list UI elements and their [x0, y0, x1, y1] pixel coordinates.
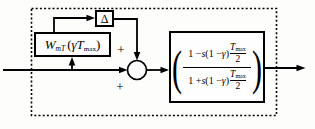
main-fraction-bar: [183, 67, 251, 68]
output-arrowhead: [297, 65, 306, 72]
tmax-subscript: max: [84, 45, 96, 53]
gamma-tmax-symbol: γT: [72, 37, 84, 53]
tf-numerator-part: (1 −: [205, 48, 221, 59]
tf-fraction: 1 − s (1 − γ ) T max 2 1 + s (1 −: [183, 43, 251, 92]
tf-numerator-part: 1 −: [188, 48, 201, 59]
tf-close-paren: ): [252, 42, 262, 92]
transfer-function-block: ( 1 − s (1 − γ ) T max 2 1 +: [169, 31, 265, 103]
wmt-to-delta-line: [54, 18, 87, 32]
delta-input-arrowhead: [87, 15, 96, 22]
summing-junction: [128, 61, 147, 80]
tmax-numerator: T max: [230, 70, 246, 80]
uncertainty-block-diagram: W mT ( γT max ) Δ + + ( 1 − s (1 − γ ) T: [0, 0, 315, 129]
tmax-over-2-fraction: T max 2: [230, 70, 246, 92]
sum-top-arrowhead: [134, 52, 141, 61]
w-symbol: W: [45, 37, 56, 53]
delta-symbol: Δ: [101, 13, 109, 25]
delta-uncertainty-block: Δ: [95, 10, 114, 27]
tmax-over-2-fraction: T max 2: [230, 43, 246, 65]
tf-denominator-part: 1 +: [188, 75, 201, 86]
max-subscript: max: [235, 73, 245, 79]
tmax-numerator: T max: [230, 43, 246, 53]
wmt-weight-block: W mT ( γT max ): [34, 32, 111, 57]
wmt-label: W mT ( γT max ): [45, 37, 101, 53]
tf-numerator: 1 − s (1 − γ ) T max 2: [188, 43, 245, 65]
wmt-input-arrowhead: [69, 57, 76, 66]
tf-denominator: 1 + s (1 − γ ) T max 2: [188, 70, 245, 92]
sum-sign-bottom: +: [112, 80, 128, 94]
diagram-wires: [0, 0, 315, 129]
sum-sign-top: +: [113, 43, 129, 57]
wmt-close-paren: ): [96, 37, 100, 53]
input-arrowhead: [119, 67, 128, 74]
tf-open-paren: (: [172, 42, 182, 92]
w-subscript: mT: [56, 44, 66, 53]
max-subscript: max: [235, 46, 245, 52]
tf-input-arrowhead: [161, 67, 170, 74]
tf-denominator-part: (1 −: [205, 75, 221, 86]
tf-numerator-part: ): [226, 48, 229, 59]
two-denominator: 2: [236, 82, 241, 92]
tf-denominator-part: ): [226, 75, 229, 86]
two-denominator: 2: [236, 55, 241, 65]
